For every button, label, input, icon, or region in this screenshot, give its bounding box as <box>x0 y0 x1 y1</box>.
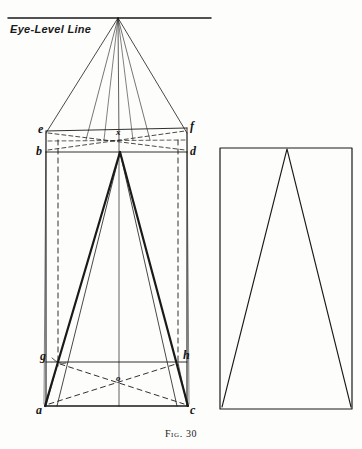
elevation-rectangle <box>220 148 352 409</box>
point-label-h: h <box>183 349 190 361</box>
figure-caption-prefix: Fig. <box>165 428 183 439</box>
upper-plane-mid-dashed <box>48 140 185 141</box>
elevation-triangle <box>222 149 351 407</box>
point-label-x: x <box>116 128 121 137</box>
figure-caption: Fig. 30 <box>0 428 362 439</box>
point-label-a: a <box>36 404 42 416</box>
point-label-d: d <box>190 145 196 157</box>
point-label-g: g <box>40 350 46 362</box>
point-label-o: o <box>116 374 121 383</box>
perspective-diagram-canvas <box>0 0 362 449</box>
point-label-e: e <box>38 123 43 135</box>
vp-ray-to-e <box>46 18 118 133</box>
edge-h-c <box>178 362 187 406</box>
vp-ray-center-vertical <box>118 18 119 140</box>
point-label-f: f <box>190 120 194 132</box>
point-label-c: c <box>190 404 195 416</box>
figure-page: Eye-Level Line e f x b d g h o a c Fig. … <box>0 0 362 449</box>
point-label-b: b <box>36 145 42 157</box>
base-diagonal-g-c <box>60 364 184 404</box>
vp-ray-inner-left <box>86 18 118 140</box>
eye-level-line-label: Eye-Level Line <box>10 23 91 35</box>
vp-ray-inner-right <box>118 18 150 140</box>
vp-ray-mid-right <box>118 18 133 140</box>
base-diagonal-a-h <box>49 364 176 404</box>
edge-g-a <box>46 362 58 406</box>
pyramid-edge-apex-g <box>57 152 120 406</box>
figure-caption-number: 30 <box>186 428 197 439</box>
pyramid-edge-apex-h <box>120 152 177 406</box>
vp-ray-to-f <box>118 18 187 133</box>
